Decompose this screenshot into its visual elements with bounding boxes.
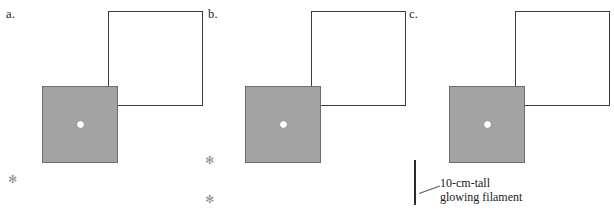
filament-legend-line-1: 10-cm-tall [440, 176, 522, 190]
panel-c: c. 10-cm-tall glowing filament [407, 0, 614, 211]
filament-leader-line [419, 185, 440, 193]
panel-b-light-source-2: ✻ [204, 194, 215, 205]
panel-b-pinhole [279, 120, 288, 129]
panel-b-label: b. [208, 8, 218, 21]
panel-c-camera-box [449, 86, 525, 163]
panel-a-screen [108, 11, 203, 106]
panel-b-screen [311, 11, 406, 106]
filament-legend-line-2: glowing filament [440, 190, 522, 204]
panel-b: b. ✻ ✻ [203, 0, 408, 211]
panel-a-label: a. [6, 8, 15, 21]
glowing-filament-bar [414, 160, 416, 205]
panel-a: a. ✻ [0, 0, 205, 211]
filament-legend: 10-cm-tall glowing filament [440, 176, 522, 204]
panel-b-light-source-1: ✻ [204, 155, 215, 166]
panel-c-pinhole [483, 120, 492, 129]
panel-c-screen [515, 11, 610, 106]
panel-a-pinhole [76, 120, 85, 129]
panel-b-camera-box [245, 86, 321, 163]
pinhole-camera-figure: a. ✻ b. ✻ ✻ c. 10-cm-tall glowing filame… [0, 0, 614, 211]
panel-a-camera-box [42, 86, 118, 163]
panel-c-label: c. [409, 8, 418, 21]
panel-a-light-source-1: ✻ [7, 174, 18, 185]
